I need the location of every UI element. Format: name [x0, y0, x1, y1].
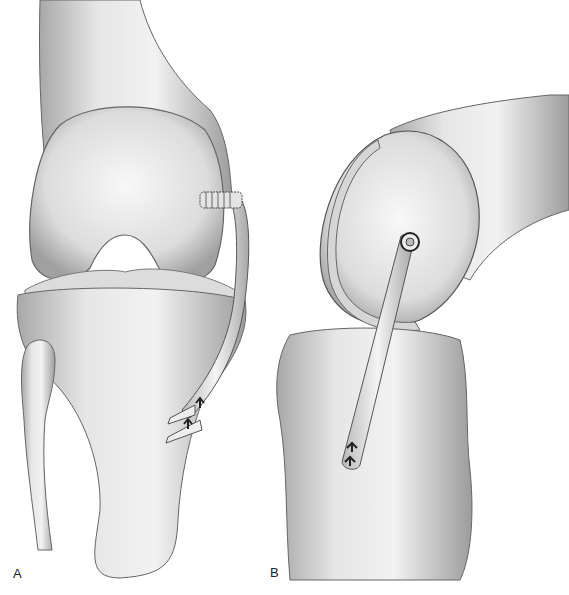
panel-label-a: A	[13, 566, 22, 581]
panel-label-b: B	[270, 565, 279, 580]
knee-illustration: A B	[0, 0, 569, 595]
tibia-a	[17, 288, 246, 578]
fibula-a	[22, 340, 56, 550]
femoral-fixation-icon	[401, 233, 419, 251]
illustration-svg	[0, 0, 569, 595]
panel-a	[17, 0, 249, 578]
panel-b	[277, 95, 569, 580]
femoral-condyles-a	[30, 107, 224, 281]
interference-screw-icon	[200, 192, 242, 208]
